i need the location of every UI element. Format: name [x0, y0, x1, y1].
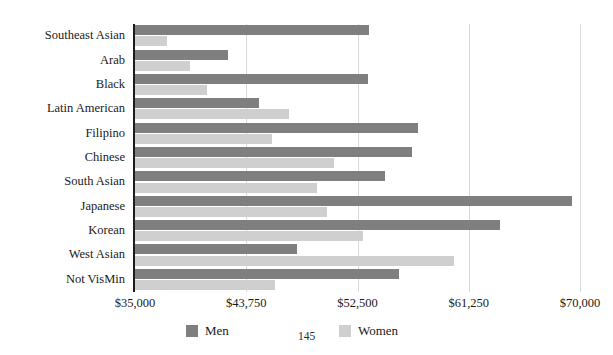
category-label-japanese: Japanese: [0, 200, 125, 213]
gridline: [580, 24, 581, 292]
x-axis-tick-labels: $35,000$43,750$52,500$61,250$70,000: [0, 296, 613, 314]
bar-women-black: [135, 85, 207, 95]
x-tick-label: $61,250: [448, 296, 489, 311]
bar-men-south-asian: [135, 171, 385, 181]
bar-women-southeast-asian: [135, 36, 167, 46]
category-label-filipino: Filipino: [0, 127, 125, 140]
bar-men-japanese: [135, 196, 572, 206]
gridline: [469, 24, 470, 292]
x-tick-label: $43,750: [226, 296, 267, 311]
bar-men-filipino: [135, 123, 418, 133]
bar-men-southeast-asian: [135, 25, 369, 35]
bar-women-not-vismin: [135, 280, 275, 290]
bar-women-arab: [135, 61, 190, 71]
bar-women-south-asian: [135, 183, 317, 193]
plot-area: [135, 24, 580, 292]
bar-men-black: [135, 74, 368, 84]
gridline: [358, 24, 359, 292]
category-label-southeast-asian: Southeast Asian: [0, 29, 125, 42]
category-label-latin-american: Latin American: [0, 102, 125, 115]
category-label-black: Black: [0, 78, 125, 91]
chart-figure: Southeast AsianArabBlackLatin AmericanFi…: [0, 0, 613, 355]
bar-women-korean: [135, 231, 363, 241]
bar-men-not-vismin: [135, 269, 399, 279]
bar-women-filipino: [135, 134, 272, 144]
category-label-arab: Arab: [0, 54, 125, 67]
bar-women-chinese: [135, 158, 334, 168]
bar-women-japanese: [135, 207, 327, 217]
page-number: 145: [0, 330, 613, 343]
category-label-not-vismin: Not VisMin: [0, 273, 125, 286]
x-tick-label: $70,000: [560, 296, 601, 311]
category-label-korean: Korean: [0, 224, 125, 237]
bar-women-west-asian: [135, 256, 454, 266]
x-tick-label: $52,500: [337, 296, 378, 311]
category-label-chinese: Chinese: [0, 151, 125, 164]
category-label-west-asian: West Asian: [0, 248, 125, 261]
chart-title: [0, 0, 613, 1]
category-axis: Southeast AsianArabBlackLatin AmericanFi…: [0, 24, 131, 292]
bar-men-arab: [135, 50, 228, 60]
bar-men-korean: [135, 220, 500, 230]
bar-women-latin-american: [135, 109, 289, 119]
bar-men-latin-american: [135, 98, 259, 108]
category-label-south-asian: South Asian: [0, 175, 125, 188]
bar-men-west-asian: [135, 244, 297, 254]
x-tick-label: $35,000: [115, 296, 156, 311]
bar-men-chinese: [135, 147, 412, 157]
